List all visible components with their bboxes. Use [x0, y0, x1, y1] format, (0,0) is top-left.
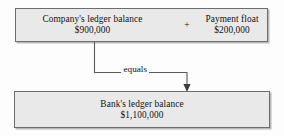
- bank-ledger-balance-amount: $1,100,000: [121, 110, 164, 120]
- bottom-box-content: Bank's ledger balance $1,100,000: [15, 92, 269, 127]
- equals-label: equals: [121, 65, 149, 74]
- company-ledger-balance-amount: $900,000: [75, 25, 111, 35]
- bank-ledger-balance-label: Bank's ledger balance: [100, 99, 183, 109]
- payment-float-amount: $200,000: [214, 25, 250, 35]
- company-ledger-balance-label: Company's ledger balance: [42, 14, 142, 24]
- bottom-box-result: Bank's ledger balance $1,100,000: [14, 91, 270, 128]
- top-box-content: Company's ledger balance $900,000 + Paym…: [16, 9, 267, 41]
- ledger-balance-diagram: Company's ledger balance $900,000 + Paym…: [0, 0, 284, 136]
- payment-float-label: Payment float: [205, 14, 258, 24]
- plus-operator: +: [180, 9, 194, 41]
- payment-float-cell: Payment float $200,000: [199, 9, 265, 41]
- company-ledger-balance-cell: Company's ledger balance $900,000: [20, 9, 165, 41]
- top-box-components: Company's ledger balance $900,000 + Paym…: [15, 8, 268, 42]
- bank-ledger-balance-cell: Bank's ledger balance $1,100,000: [15, 92, 269, 127]
